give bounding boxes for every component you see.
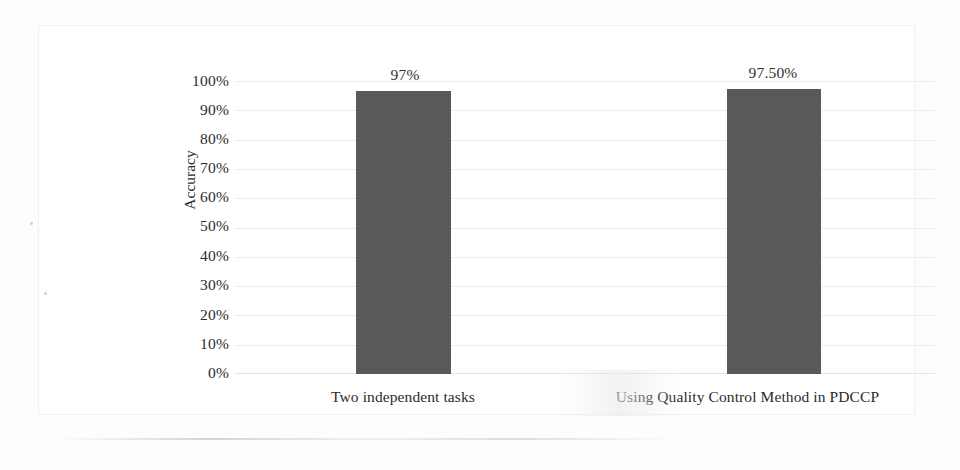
scan-speckle	[30, 222, 33, 225]
bar-value-label: 97%	[335, 66, 475, 84]
scan-smudge	[560, 370, 680, 416]
y-tick-label: 80%	[167, 129, 229, 149]
y-axis-tick-labels: 100% 90% 80% 70% 60% 50% 40% 30% 20% 10%…	[167, 71, 229, 384]
y-tick-label: 30%	[167, 275, 229, 295]
gridline	[235, 315, 935, 316]
gridline	[235, 140, 935, 141]
plot-area: 97% 97.50%	[235, 81, 935, 374]
gridline	[235, 257, 935, 258]
y-tick-label: 60%	[167, 187, 229, 207]
bar-using-quality-control-method-in-pdccp[interactable]	[727, 89, 821, 374]
gridline	[235, 286, 935, 287]
y-tick-label: 20%	[167, 305, 229, 325]
bar-value-label: 97.50%	[703, 64, 843, 82]
gridline	[235, 110, 935, 111]
scan-smudge	[55, 438, 675, 440]
x-tick-label: Two independent tasks	[253, 388, 553, 406]
scan-speckle	[44, 292, 47, 295]
y-tick-label: 40%	[167, 246, 229, 266]
gridline	[235, 345, 935, 346]
y-tick-label: 0%	[167, 363, 229, 383]
chart-frame: Accuracy 100% 90% 80% 70% 60% 50% 40% 30…	[38, 25, 915, 415]
bar-two-independent-tasks[interactable]	[356, 91, 451, 374]
y-tick-label: 100%	[167, 71, 229, 91]
gridline	[235, 198, 935, 199]
gridline	[235, 169, 935, 170]
y-tick-label: 90%	[167, 100, 229, 120]
gridline	[235, 228, 935, 229]
y-tick-label: 50%	[167, 216, 229, 236]
y-tick-label: 10%	[167, 334, 229, 354]
y-tick-label: 70%	[167, 158, 229, 178]
